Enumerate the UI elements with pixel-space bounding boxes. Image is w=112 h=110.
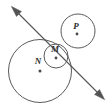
- center-dot-m: [55, 57, 58, 60]
- center-dot-n: [39, 70, 42, 73]
- label-p: P: [73, 21, 79, 31]
- figure-canvas: N M P: [0, 0, 112, 110]
- geometry-figure: N M P: [0, 0, 112, 110]
- circle-p: [61, 14, 95, 48]
- label-m: M: [50, 44, 60, 54]
- label-n: N: [34, 56, 42, 66]
- center-dot-p: [76, 33, 79, 36]
